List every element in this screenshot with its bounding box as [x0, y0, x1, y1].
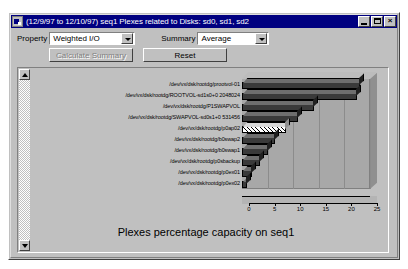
category-axis-labels: /dev/vx/dsk/rootdg/prootvol-01/dev/vx/ds…	[30, 72, 242, 196]
calculate-summary-button[interactable]: Calculate Summary	[49, 48, 133, 62]
category-label: /dev/vx/dsk/rootdg/p0ex01	[178, 169, 240, 176]
close-button[interactable]: ×	[384, 16, 396, 27]
bar-top-face	[243, 111, 302, 116]
bar[interactable]	[242, 181, 247, 188]
maximize-button[interactable]	[371, 16, 383, 27]
axis-line-back	[242, 196, 370, 197]
chart-vertical-scrollbar[interactable]	[19, 69, 30, 251]
category-label: /dev/vx/dsk/rootdg/ROOTVOL-sd1s0+0 20480…	[125, 92, 240, 99]
property-select[interactable]: Weighted I/O	[49, 32, 135, 45]
scrollbar-track[interactable]	[19, 80, 30, 240]
category-label: /dev/vx/dsk/rootdg/prootvol-01	[169, 81, 240, 88]
bar-top-face	[243, 100, 317, 105]
chart-title: Plexes percentage capacity on seq1	[30, 226, 382, 238]
axis-tick-label: 0	[247, 206, 250, 212]
chart-window-icon	[12, 16, 23, 27]
chart-canvas: /dev/vx/dsk/rootdg/prootvol-01/dev/vx/ds…	[30, 68, 388, 252]
chevron-down-icon[interactable]	[121, 33, 133, 44]
app-root: (12/9/97 to 12/10/97) seq1 Plexes relate…	[0, 0, 408, 269]
bar[interactable]	[242, 82, 360, 89]
action-buttons-row: Calculate Summary Reset	[49, 48, 227, 62]
filter-controls-row: Property Weighted I/O Summary Average	[17, 31, 393, 46]
category-label: /dev/vx/dsk/rootdg/p0ap02	[178, 125, 240, 132]
category-label: /dev/vx/dsk/rootdg/b0swap1	[174, 147, 240, 154]
axis-tick-label: 20	[348, 206, 355, 212]
property-select-value: Weighted I/O	[53, 34, 121, 43]
axis-tick-label: 5	[273, 206, 276, 212]
category-label: /dev/vx/dsk/rootdg/P1SWAPVOL	[163, 103, 240, 110]
chart-panel: /dev/vx/dsk/rootdg/prootvol-01/dev/vx/ds…	[17, 67, 389, 253]
category-label: /dev/vx/dsk/rootdg/b0swap2	[174, 136, 240, 143]
summary-label: Summary	[161, 34, 195, 43]
bar-top-face	[243, 89, 361, 94]
plot-wrapper: /dev/vx/dsk/rootdg/prootvol-01/dev/vx/ds…	[30, 72, 382, 222]
summary-select-value: Average	[201, 34, 255, 43]
summary-select[interactable]: Average	[197, 32, 269, 45]
chart-window: (12/9/97 to 12/10/97) seq1 Plexes relate…	[8, 12, 400, 260]
category-label: /dev/vx/dsk/rootdg/p0sbackup	[170, 158, 240, 165]
reset-button[interactable]: Reset	[143, 48, 227, 62]
window-title: (12/9/97 to 12/10/97) seq1 Plexes relate…	[26, 16, 354, 27]
category-label: /dev/vx/dsk/rootdg/SWAPVOL-sd0s1+0 53145…	[128, 114, 240, 121]
bar[interactable]	[242, 93, 357, 100]
bar-top-face	[243, 122, 289, 127]
axis-tick-label: 25	[374, 206, 381, 212]
gridline	[370, 79, 371, 189]
title-bar[interactable]: (12/9/97 to 12/10/97) seq1 Plexes relate…	[11, 15, 397, 28]
bar[interactable]	[242, 104, 314, 111]
minimize-button[interactable]	[358, 16, 370, 27]
plot-right-face	[370, 73, 377, 189]
category-label: /dev/vx/dsk/rootdg/p0ex02	[178, 180, 240, 187]
axis-line-front	[249, 203, 377, 204]
property-label: Property	[17, 34, 47, 43]
bar-top-face	[243, 78, 363, 83]
value-axis: 0510152025	[242, 196, 378, 216]
axis-tick-label: 15	[322, 206, 329, 212]
chevron-down-icon[interactable]	[255, 33, 267, 44]
window-controls: ×	[358, 16, 396, 27]
scroll-up-icon[interactable]	[19, 69, 30, 80]
axis-tick-label: 10	[297, 206, 304, 212]
scroll-down-icon[interactable]	[19, 240, 30, 251]
plot-region	[242, 72, 378, 196]
